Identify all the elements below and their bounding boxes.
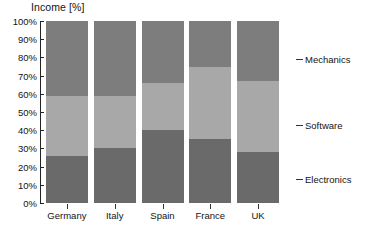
y-axis-tick-label: 70% [0,70,37,81]
legend-callout-dash [296,125,303,126]
chart-axis-title: Income [%] [31,1,85,13]
bar-segment-electronics[interactable] [189,139,231,203]
bar-segment-mechanics[interactable] [189,21,231,67]
legend-callout-dash [296,59,303,60]
x-axis-label-uk: UK [251,210,264,221]
x-axis-label-france: France [196,210,226,221]
stacked-bar-chart: Income [%] 100%90%80%70%60%50%40%30%20%1… [0,0,367,230]
bar-segment-software[interactable] [237,81,279,152]
bar-germany[interactable] [46,21,88,203]
x-axis-label-italy: Italy [106,210,123,221]
y-axis-tick-label: 30% [0,143,37,154]
bar-segment-electronics[interactable] [142,130,184,203]
x-axis-tick [67,204,68,209]
bar-france[interactable] [189,21,231,203]
bar-segment-software[interactable] [189,67,231,140]
bar-segment-software[interactable] [94,96,136,149]
bar-segment-mechanics[interactable] [46,21,88,96]
plot-area [43,21,282,203]
bar-segment-mechanics[interactable] [94,21,136,96]
x-axis-label-germany: Germany [47,210,86,221]
y-axis-tick [40,203,44,204]
y-axis-tick-label: 20% [0,161,37,172]
bar-segment-electronics[interactable] [46,156,88,203]
x-axis-tick [163,204,164,209]
x-axis-tick [115,204,116,209]
y-axis-tick-label: 40% [0,125,37,136]
bar-segment-mechanics[interactable] [142,21,184,83]
legend-label-software[interactable]: Software [305,119,343,130]
bar-segment-software[interactable] [46,96,88,156]
y-axis-tick-label: 100% [0,16,37,27]
bar-spain[interactable] [142,21,184,203]
y-axis-tick-label: 50% [0,107,37,118]
bar-segment-electronics[interactable] [94,148,136,203]
x-axis-tick [258,204,259,209]
bar-uk[interactable] [237,21,279,203]
y-axis-tick-label: 0% [0,198,37,209]
x-axis-tick [210,204,211,209]
x-axis-label-spain: Spain [150,210,174,221]
bar-segment-electronics[interactable] [237,152,279,203]
y-axis-tick-label: 90% [0,34,37,45]
y-axis-tick-label: 80% [0,52,37,63]
bar-italy[interactable] [94,21,136,203]
y-axis-tick-label: 10% [0,179,37,190]
legend-callout-dash [296,179,303,180]
legend-label-electronics[interactable]: Electronics [305,174,351,185]
bar-segment-mechanics[interactable] [237,21,279,81]
legend-label-mechanics[interactable]: Mechanics [305,54,350,65]
bar-segment-software[interactable] [142,83,184,130]
y-axis-tick-label: 60% [0,88,37,99]
